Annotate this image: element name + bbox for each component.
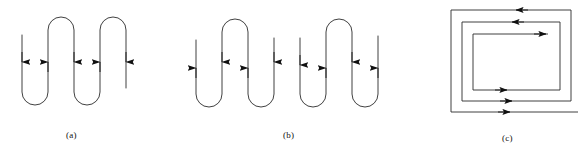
- figure-container: (a) (b) (c): [0, 0, 583, 152]
- panel-label-c: (c): [502, 133, 513, 143]
- panel-b-serpentine-curve-left: [196, 19, 274, 107]
- panel-b-arrow-group: [196, 52, 378, 78]
- panel-c-arrow-group: [495, 10, 546, 112]
- panel-label-b: (b): [283, 130, 294, 140]
- panel-c-spiral-group: [451, 10, 578, 112]
- panel-b-path-group: [196, 19, 378, 107]
- panel-c-spiral-path: [451, 10, 578, 112]
- panel-b-serpentine-curve-right: [300, 19, 378, 107]
- panel-label-a: (a): [66, 130, 77, 140]
